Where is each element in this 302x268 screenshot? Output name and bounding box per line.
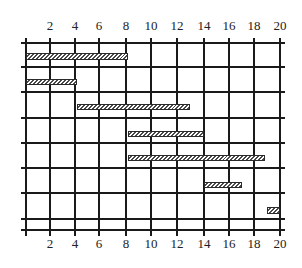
- gantt-bar: [26, 79, 77, 85]
- x-tick-label-top: 2: [47, 18, 54, 34]
- x-tick-label-bottom: 4: [72, 236, 79, 252]
- grid-horizontal-line: [21, 42, 285, 44]
- gantt-bar: [204, 182, 242, 188]
- x-tick-label-bottom: 6: [96, 236, 103, 252]
- x-tick-label-bottom: 20: [274, 236, 287, 252]
- x-tick-label-bottom: 10: [145, 236, 158, 252]
- gantt-bar: [26, 53, 128, 60]
- grid-horizontal-line: [21, 66, 285, 68]
- x-tick-label-bottom: 14: [198, 236, 211, 252]
- x-tick-label-top: 12: [171, 18, 184, 34]
- x-tick-label-bottom: 2: [47, 236, 54, 252]
- gantt-chart: 22446688101012121414161618182020: [0, 0, 302, 268]
- gantt-bar: [77, 104, 190, 110]
- x-tick-label-top: 16: [223, 18, 236, 34]
- grid-horizontal-line: [21, 192, 285, 194]
- grid-horizontal-line: [21, 229, 285, 231]
- grid-horizontal-line: [21, 218, 285, 220]
- x-tick-label-top: 20: [274, 18, 287, 34]
- x-tick-label-top: 18: [248, 18, 261, 34]
- x-tick-label-bottom: 12: [171, 236, 184, 252]
- grid-horizontal-line: [21, 167, 285, 169]
- gantt-bar: [267, 207, 280, 214]
- x-tick-label-top: 10: [145, 18, 158, 34]
- x-tick-label-bottom: 18: [248, 236, 261, 252]
- gantt-bar: [128, 155, 265, 161]
- x-tick-label-top: 8: [123, 18, 130, 34]
- grid-horizontal-line: [21, 142, 285, 144]
- gantt-bar: [128, 131, 204, 137]
- grid-horizontal-line: [21, 117, 285, 119]
- x-tick-label-top: 14: [198, 18, 211, 34]
- x-tick-label-top: 4: [72, 18, 79, 34]
- x-tick-label-bottom: 8: [123, 236, 130, 252]
- x-tick-label-top: 6: [96, 18, 103, 34]
- grid-horizontal-line: [21, 91, 285, 93]
- x-tick-label-bottom: 16: [223, 236, 236, 252]
